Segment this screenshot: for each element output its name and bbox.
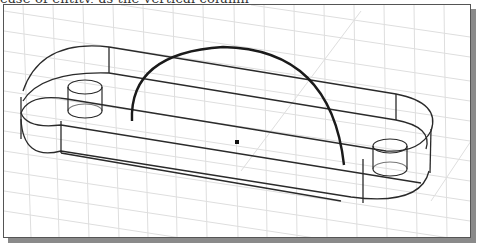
cropped-caption-text: ease of entity, as the vertical column xyxy=(0,0,478,3)
slot-body xyxy=(21,46,433,203)
center-point-marker xyxy=(235,140,239,144)
wireframe-drawing xyxy=(4,5,470,237)
cad-viewport[interactable] xyxy=(3,4,471,238)
